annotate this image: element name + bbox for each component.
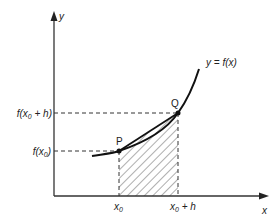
curve-label: y = f(x): [205, 57, 237, 68]
y-axis-label: y: [58, 11, 65, 22]
y-axis-arrow-icon: [51, 11, 58, 21]
tick-label-x0: x0: [113, 201, 123, 213]
diagram-canvas: y x y = f(x) P Q x0 x0 + h f(x0 + h) f(x…: [0, 0, 280, 221]
point-q-label: Q: [171, 98, 179, 109]
x-axis-label: x: [261, 205, 268, 216]
point-q: [176, 111, 181, 116]
shaded-area: [119, 113, 178, 196]
tick-label-x0-h: x0 + h: [169, 201, 196, 213]
x-axis-arrow-icon: [259, 193, 269, 200]
tick-label-f-x0-h: f(x0 + h): [17, 108, 52, 120]
point-p: [117, 149, 122, 154]
point-p-label: P: [116, 136, 123, 147]
tick-label-f-x0: f(x0): [33, 146, 51, 158]
